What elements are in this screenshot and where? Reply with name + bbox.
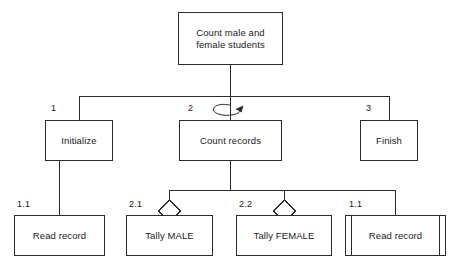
node-read-record-2-label: Read record <box>369 230 422 242</box>
seq-number-count-records: 2 <box>188 103 193 113</box>
loop-arrow-icon <box>213 104 243 115</box>
node-tally-male[interactable]: Tally MALE <box>126 215 213 256</box>
seq-number-tally-male: 2.1 <box>129 199 142 209</box>
node-tally-female[interactable]: Tally FEMALE <box>236 215 332 256</box>
node-initialize-label: Initialize <box>61 135 96 147</box>
node-root-label: Count male and female students <box>196 27 265 51</box>
library-module-bar-left <box>351 216 352 255</box>
library-module-bar-right <box>439 216 440 255</box>
node-count-records-label: Count records <box>200 135 261 147</box>
structure-chart-diagram: Count male and female students 1 Initial… <box>0 0 459 266</box>
seq-number-tally-female: 2.2 <box>239 199 252 209</box>
node-read-record-1-label: Read record <box>33 230 86 242</box>
node-finish[interactable]: Finish <box>360 120 418 161</box>
node-finish-label: Finish <box>376 135 402 147</box>
node-tally-female-label: Tally FEMALE <box>254 230 315 242</box>
seq-number-read-record-2: 1.1 <box>349 199 362 209</box>
seq-number-finish: 3 <box>366 103 371 113</box>
node-tally-male-label: Tally MALE <box>145 230 194 242</box>
seq-number-read-record-1: 1.1 <box>17 199 30 209</box>
seq-number-initialize: 1 <box>51 103 56 113</box>
node-count-records[interactable]: Count records <box>179 120 282 161</box>
node-read-record-1[interactable]: Read record <box>14 215 105 256</box>
node-initialize[interactable]: Initialize <box>45 120 113 161</box>
node-read-record-2[interactable]: Read record <box>345 215 446 256</box>
node-root[interactable]: Count male and female students <box>178 12 283 65</box>
